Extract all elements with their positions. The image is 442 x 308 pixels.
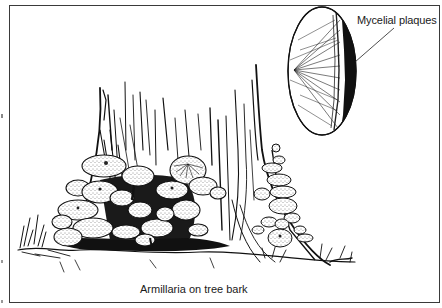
callout-label-mycelial-plaques: Mycelial plaques — [357, 14, 437, 26]
figure-caption: Armillaria on tree bark — [140, 283, 248, 295]
armillaria-illustration — [0, 0, 442, 308]
magnified-bark-inset — [288, 7, 356, 135]
callout-leader-line — [355, 28, 394, 62]
